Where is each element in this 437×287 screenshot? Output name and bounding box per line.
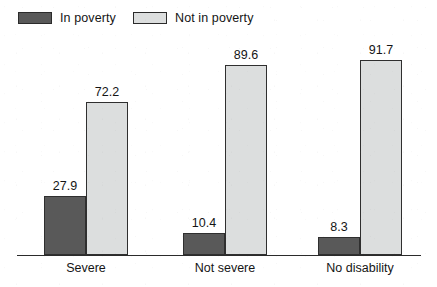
bar-no-disability-not-in-poverty[interactable] [360, 60, 402, 255]
x-axis-label-no-disability: No disability [282, 261, 437, 276]
x-axis-line [17, 255, 421, 256]
bar-severe-in-poverty[interactable] [44, 196, 86, 255]
x-axis-label-not-severe: Not severe [147, 261, 303, 276]
plot-area: 27.9 72.2 10.4 89.6 8.3 91.7 Severe Not … [0, 0, 437, 287]
bar-severe-not-in-poverty[interactable] [86, 102, 128, 255]
bar-not-severe-in-poverty[interactable] [183, 233, 225, 255]
bar-value-no-disability-not-in-poverty: 91.7 [350, 44, 412, 57]
bar-value-severe-not-in-poverty: 72.2 [76, 86, 138, 99]
bar-not-severe-not-in-poverty[interactable] [225, 65, 267, 255]
bar-value-not-severe-not-in-poverty: 89.6 [215, 49, 277, 62]
bar-chart: In poverty Not in poverty 27.9 72.2 10.4… [0, 0, 437, 287]
x-axis-label-severe: Severe [8, 261, 164, 276]
bar-no-disability-in-poverty[interactable] [318, 237, 360, 255]
